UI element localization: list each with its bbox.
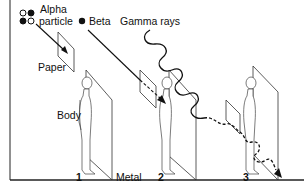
scene-2 bbox=[140, 70, 196, 180]
alpha-particle-icon bbox=[20, 10, 34, 24]
label-gamma-rays: Gamma rays bbox=[120, 16, 180, 27]
beta-particle-icon bbox=[79, 18, 85, 24]
scene-1 bbox=[79, 70, 112, 180]
scene-3 bbox=[226, 66, 278, 180]
alpha-arrow bbox=[36, 24, 68, 54]
diagram-canvas bbox=[0, 0, 304, 193]
label-body: Body bbox=[57, 110, 81, 121]
person-figure-1 bbox=[79, 77, 95, 174]
label-beta: Beta bbox=[89, 16, 111, 27]
scene-number-3: 3 bbox=[243, 172, 249, 183]
frame bbox=[10, 0, 304, 180]
label-alpha-line1: Alpha bbox=[40, 4, 67, 15]
scene-number-2: 2 bbox=[158, 172, 164, 183]
label-metal: Metal bbox=[116, 172, 142, 183]
label-alpha-line2: particle bbox=[39, 16, 73, 27]
radiation-penetration-diagram: Alpha particle Beta Gamma rays Paper Bod… bbox=[0, 0, 304, 193]
label-paper: Paper bbox=[38, 62, 66, 73]
scene-number-1: 1 bbox=[76, 172, 82, 183]
beta-arrow bbox=[88, 30, 166, 104]
person-figure-3 bbox=[244, 77, 259, 174]
